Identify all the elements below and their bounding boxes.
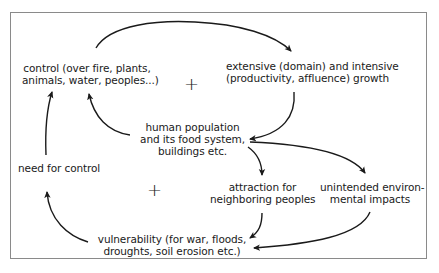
node-need-for-control: need for control <box>18 162 98 174</box>
edge-vulnerability-to-need-control <box>47 192 88 242</box>
node-control-line-1: control (over fire, plants, <box>22 62 152 74</box>
edge-population-to-control <box>89 94 130 135</box>
node-growth: extensive (domain) and intensive (produc… <box>226 60 386 84</box>
node-vulnerability-line-2: droughts, soil erosion etc.) <box>92 245 252 257</box>
node-control: control (over fire, plants, animals, wat… <box>22 62 152 86</box>
edge-control-to-growth <box>96 22 291 51</box>
edge-impacts-to-vulnerability <box>254 212 370 248</box>
edge-need-control-to-control <box>46 92 52 155</box>
node-population-line-2: and its food system, <box>135 133 250 145</box>
node-growth-line-1: extensive (domain) and intensive <box>226 60 386 72</box>
loop-sign-lower: + <box>147 181 162 199</box>
node-impacts-line-2: mental impacts <box>320 193 420 205</box>
node-vulnerability-line-1: vulnerability (for war, floods, <box>92 233 252 245</box>
node-population: human population and its food system, bu… <box>135 121 250 157</box>
node-need-for-control-line-1: need for control <box>18 162 98 174</box>
node-attraction: attraction for neighboring peoples <box>210 181 315 205</box>
node-population-line-3: buildings etc. <box>135 145 250 157</box>
node-control-line-2: animals, water, peoples...) <box>22 74 152 86</box>
edge-growth-to-population <box>250 92 294 139</box>
node-attraction-line-2: neighboring peoples <box>210 193 315 205</box>
node-growth-line-2: (productivity, affluence) growth <box>226 72 386 84</box>
loop-sign-upper: + <box>184 75 199 93</box>
node-vulnerability: vulnerability (for war, floods, droughts… <box>92 233 252 257</box>
node-impacts: unintended environ- mental impacts <box>320 181 420 205</box>
node-population-line-1: human population <box>135 121 250 133</box>
edge-population-to-impacts <box>250 142 365 173</box>
node-attraction-line-1: attraction for <box>210 181 315 193</box>
node-impacts-line-1: unintended environ- <box>320 181 420 193</box>
edge-population-to-attraction <box>248 147 262 175</box>
